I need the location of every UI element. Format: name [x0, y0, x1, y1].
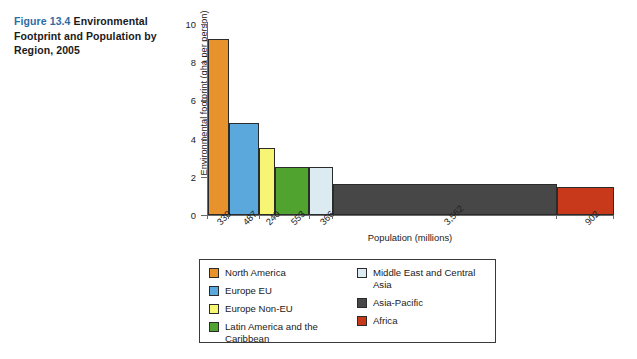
x-axis-tick	[228, 215, 229, 219]
y-axis-tick-label: 6	[168, 95, 196, 106]
y-axis-tick-label: 8	[168, 57, 196, 68]
bar	[259, 148, 274, 215]
y-axis-tick-label: 2	[168, 171, 196, 182]
y-axis-tick	[201, 62, 207, 63]
legend-swatch	[357, 316, 367, 326]
legend-column-left: North AmericaEurope EUEurope Non-EULatin…	[209, 267, 357, 342]
legend-swatch	[209, 304, 219, 314]
x-axis-tick	[309, 215, 310, 219]
legend-item: Africa	[357, 315, 495, 327]
x-axis-tick	[613, 215, 614, 219]
bar-series	[208, 24, 614, 215]
legend-label: Middle East and Central Asia	[373, 267, 495, 290]
y-axis-tick	[201, 177, 207, 178]
legend-label: Europe EU	[225, 285, 272, 297]
x-axis-tick	[332, 215, 333, 219]
legend-item: Middle East and Central Asia	[357, 267, 495, 290]
legend-swatch	[357, 298, 367, 308]
legend-column-right: Middle East and Central AsiaAsia-Pacific…	[357, 267, 495, 342]
x-axis-tick	[259, 215, 260, 219]
figure-caption: Figure 13.4 Environmental Footprint and …	[14, 14, 166, 58]
bar	[333, 184, 558, 215]
bar	[309, 167, 332, 215]
plot-area	[208, 24, 614, 215]
chart-legend: North AmericaEurope EUEurope Non-EULatin…	[199, 259, 496, 343]
legend-label: North America	[225, 267, 286, 279]
y-axis-tick	[201, 139, 207, 140]
legend-swatch	[209, 268, 219, 278]
bar	[275, 167, 310, 215]
bar	[557, 187, 614, 215]
figure-number: Figure 13.4	[14, 15, 71, 27]
x-axis-title: Population (millions)	[207, 232, 613, 243]
legend-label: Latin America and the Caribbean	[225, 321, 357, 344]
legend-item: North America	[209, 267, 357, 279]
y-axis-tick-label: 10	[168, 19, 196, 30]
legend-item: Europe Non-EU	[209, 303, 357, 315]
x-axis-tick	[274, 215, 275, 219]
y-axis-tick	[201, 100, 207, 101]
bar	[208, 39, 229, 215]
bar-chart: Environmental footprint (gha per person)…	[168, 10, 624, 250]
y-axis-tick-label: 0	[168, 210, 196, 221]
legend-label: Asia-Pacific	[373, 297, 423, 309]
y-axis-tick	[201, 24, 207, 25]
legend-item: Asia-Pacific	[357, 297, 495, 309]
legend-label: Africa	[373, 315, 398, 327]
legend-item: Latin America and the Caribbean	[209, 321, 357, 344]
legend-swatch	[209, 286, 219, 296]
legend-swatch	[209, 322, 219, 332]
legend-swatch	[357, 268, 367, 278]
x-axis-tick	[207, 215, 208, 219]
x-axis-tick	[556, 215, 557, 219]
legend-item: Europe EU	[209, 285, 357, 297]
y-axis-tick-label: 4	[168, 133, 196, 144]
bar	[229, 123, 260, 215]
legend-label: Europe Non-EU	[225, 303, 293, 315]
